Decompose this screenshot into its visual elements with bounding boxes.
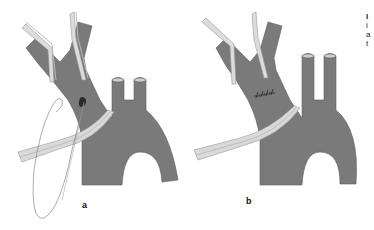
- vessel-shape: [216, 22, 357, 185]
- aorta-illustration-a: [0, 0, 190, 230]
- cropped-caption-text: I i a t: [366, 12, 374, 48]
- panel-label-a: a: [82, 200, 87, 210]
- aorta-illustration-b: [190, 0, 366, 230]
- caption-fragment: i: [366, 21, 374, 30]
- panel-b: b: [190, 0, 366, 230]
- caption-fragment: a: [366, 30, 374, 39]
- caption-fragment: I: [366, 12, 374, 21]
- caption-fragment: t: [366, 39, 374, 48]
- panel-label-b: b: [246, 196, 252, 206]
- panel-a: a: [0, 0, 190, 230]
